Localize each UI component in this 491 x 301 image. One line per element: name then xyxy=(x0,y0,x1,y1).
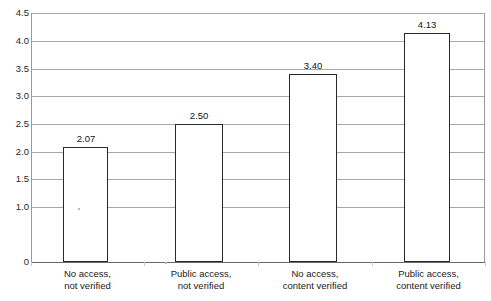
x-category-label-3: No access, content verified xyxy=(258,268,372,292)
x-tickmark-1 xyxy=(144,262,145,266)
y-tick-label-3-0: 3.0 xyxy=(3,91,29,101)
x-category-label-3-line2: content verified xyxy=(258,280,372,292)
y-tick-label-0: 0 xyxy=(3,257,29,267)
x-category-label-2: Public access, not verified xyxy=(144,268,258,292)
x-category-label-3-line1: No access, xyxy=(258,268,372,280)
bar-value-label-3: 3.40 xyxy=(287,61,339,71)
scan-artifact-speck xyxy=(165,262,167,264)
x-category-label-1-line2: not verified xyxy=(31,280,144,292)
y-tick-label-1-0: 1.0 xyxy=(3,202,29,212)
x-tickmark-4 xyxy=(485,262,486,266)
x-category-label-1: No access, not verified xyxy=(31,268,144,292)
y-tick-label-4-0: 4.0 xyxy=(3,36,29,46)
bar-chart: 4.5 4.0 3.5 3.0 2.5 2.0 1.5 1.0 0 2.07 2… xyxy=(0,0,491,301)
bar-value-label-4: 4.13 xyxy=(401,20,453,30)
x-category-label-4: Public access, content verified xyxy=(372,268,485,292)
y-tick-label-2-0: 2.0 xyxy=(3,147,29,157)
gridline-4-5 xyxy=(32,13,484,14)
scan-artifact-speck xyxy=(78,208,80,210)
x-tickmark-2 xyxy=(258,262,259,266)
x-category-label-4-line1: Public access, xyxy=(372,268,485,280)
bar-public-access-content-verified[interactable] xyxy=(404,33,450,262)
chart-title-cropped xyxy=(34,0,334,2)
x-category-label-1-line1: No access, xyxy=(31,268,144,280)
y-tick-label-4-5: 4.5 xyxy=(3,8,29,18)
bar-no-access-not-verified[interactable] xyxy=(63,147,108,262)
bar-value-label-2: 2.50 xyxy=(173,111,225,121)
x-tickmark-0 xyxy=(31,262,32,266)
bar-public-access-not-verified[interactable] xyxy=(175,124,223,262)
x-category-label-2-line2: not verified xyxy=(144,280,258,292)
x-category-label-4-line2: content verified xyxy=(372,280,485,292)
x-category-label-2-line1: Public access, xyxy=(144,268,258,280)
bar-no-access-content-verified[interactable] xyxy=(289,74,337,262)
y-tick-label-1-5: 1.5 xyxy=(3,174,29,184)
y-axis: 4.5 4.0 3.5 3.0 2.5 2.0 1.5 1.0 0 xyxy=(0,13,29,262)
bar-value-label-1: 2.07 xyxy=(60,134,112,144)
y-tick-label-3-5: 3.5 xyxy=(3,64,29,74)
x-tickmark-3 xyxy=(372,262,373,266)
y-tick-label-2-5: 2.5 xyxy=(3,119,29,129)
